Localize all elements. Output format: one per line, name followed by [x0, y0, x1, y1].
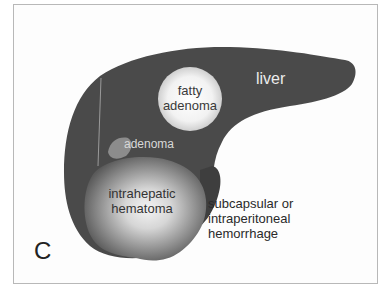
fatty-adenoma-label-line2: adenoma	[158, 99, 222, 114]
panel-letter: C	[34, 238, 51, 265]
hemorrhage-label-line2: intraperitoneal	[208, 211, 293, 226]
hematoma-label-line1: intrahepatic	[86, 187, 198, 202]
fatty-adenoma-label-line1: fatty	[158, 84, 222, 99]
hemorrhage-label: subcapsular or intraperitoneal hemorrhag…	[208, 196, 293, 242]
hematoma-label: intrahepatic hematoma	[86, 187, 198, 216]
hemorrhage-label-line1: subcapsular or	[208, 196, 293, 211]
liver-diagram	[0, 0, 387, 292]
fatty-adenoma-label: fatty adenoma	[158, 84, 222, 113]
hematoma-label-line2: hematoma	[86, 202, 198, 217]
hemorrhage-label-line3: hemorrhage	[208, 226, 293, 241]
liver-label: liver	[256, 70, 285, 88]
adenoma-label: adenoma	[124, 138, 174, 151]
